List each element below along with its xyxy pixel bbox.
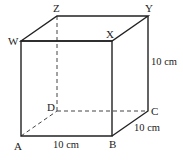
visible-edges <box>21 16 148 136</box>
dimension-length: 10 cm <box>53 139 79 150</box>
vertex-label-C: C <box>151 105 158 117</box>
vertex-label-Y: Y <box>145 2 153 14</box>
vertex-label-B: B <box>109 138 116 150</box>
edge-AD <box>21 111 57 136</box>
vertex-label-A: A <box>14 140 22 152</box>
cube-diagram: Z Y W X D C A B 10 cm 10 cm 10 cm <box>0 0 183 160</box>
vertex-label-D: D <box>47 101 55 113</box>
vertex-label-X: X <box>106 28 114 40</box>
hidden-edges <box>21 16 148 136</box>
front-face <box>21 41 112 136</box>
dimension-height: 10 cm <box>151 56 177 67</box>
vertex-label-Z: Z <box>53 2 60 14</box>
vertex-label-W: W <box>8 35 19 47</box>
dimension-depth: 10 cm <box>134 122 160 133</box>
right-face-edges <box>112 16 148 136</box>
top-face <box>21 16 148 41</box>
